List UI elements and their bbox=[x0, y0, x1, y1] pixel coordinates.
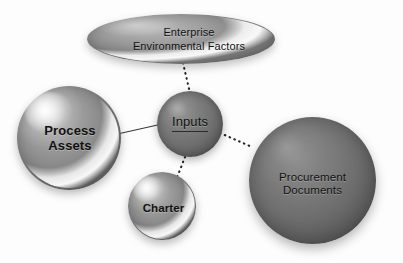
node-label-process-assets: Process Assets bbox=[44, 124, 95, 153]
connector-eef-to-inputs bbox=[183, 63, 190, 93]
node-label-inputs: Inputs bbox=[172, 115, 208, 132]
node-enterprise-environmental-factors[interactable]: Enterprise Environmental Factors bbox=[87, 14, 275, 64]
node-label-procurement-documents: Procurement Documents bbox=[279, 171, 346, 197]
connector-inputs-to-procurement-documents bbox=[220, 133, 252, 147]
node-process-assets[interactable]: Process Assets bbox=[17, 86, 121, 190]
label-line-2: Documents bbox=[279, 184, 346, 197]
label-line-2: Assets bbox=[44, 139, 95, 154]
node-label-enterprise-environmental-factors: Enterprise Environmental Factors bbox=[133, 26, 245, 53]
label-line-1: Process bbox=[44, 124, 95, 139]
label-line-2: Environmental Factors bbox=[133, 40, 245, 53]
label-line-1: Enterprise bbox=[133, 26, 245, 39]
label-line-1: Procurement bbox=[279, 171, 346, 184]
node-label-charter: Charter bbox=[143, 202, 185, 215]
node-charter[interactable]: Charter bbox=[128, 172, 196, 240]
inputs-diagram: Enterprise Environmental Factors Process… bbox=[0, 0, 403, 263]
node-inputs[interactable]: Inputs bbox=[157, 91, 223, 157]
node-procurement-documents[interactable]: Procurement Documents bbox=[249, 117, 376, 244]
